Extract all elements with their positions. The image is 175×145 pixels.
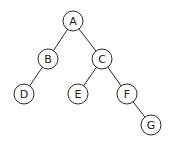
node-label-e: E — [75, 88, 82, 101]
nodes: A B C D E F G — [14, 11, 161, 135]
node-f: F — [117, 84, 137, 104]
node-label-f: F — [124, 88, 130, 101]
node-label-a: A — [69, 15, 77, 28]
node-c: C — [92, 49, 112, 69]
node-e: E — [68, 84, 88, 104]
node-g: G — [141, 115, 161, 135]
node-label-d: D — [20, 88, 28, 101]
edges — [24, 21, 151, 125]
node-b: B — [38, 49, 58, 69]
node-label-b: B — [44, 53, 52, 66]
node-label-g: G — [147, 119, 156, 132]
node-a: A — [63, 11, 83, 31]
node-label-c: C — [98, 53, 106, 66]
node-d: D — [14, 84, 34, 104]
tree-diagram: A B C D E F G — [0, 0, 175, 145]
